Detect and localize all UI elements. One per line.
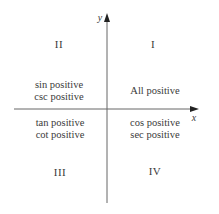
quadrant-iv-numeral: IV	[149, 165, 162, 177]
quadrant-ii-line-2: csc positive	[34, 91, 83, 103]
quadrant-i-numeral: I	[151, 38, 155, 50]
quadrant-iii-line-2: cot positive	[36, 129, 85, 141]
x-axis-label: x	[192, 113, 196, 123]
quadrant-iii-line-1: tan positive	[36, 117, 85, 129]
quadrant-iv-line-2: sec positive	[130, 129, 179, 141]
quadrant-ii-line-1: sin positive	[35, 79, 83, 91]
y-axis-arrow-icon	[104, 13, 110, 22]
quadrant-i-line-1: All positive	[130, 85, 179, 97]
quadrant-ii-numeral: II	[55, 38, 63, 50]
quadrant-iv-line-1: cos positive	[130, 117, 180, 129]
coordinate-axes	[0, 0, 219, 214]
y-axis-label: y	[98, 13, 102, 23]
quadrant-iii-numeral: III	[54, 166, 67, 178]
